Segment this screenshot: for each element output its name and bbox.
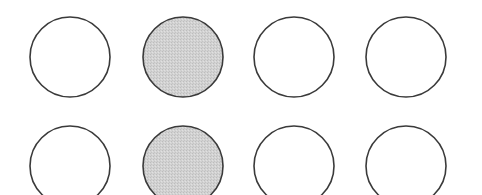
empty-circle-r1-c3 [254,17,334,97]
empty-circle-r1-c4 [366,17,446,97]
circles-layer [30,17,446,195]
empty-circle-r2-c4 [366,126,446,195]
empty-circle-r1-c1 [30,17,110,97]
shaded-circle-r2-c2 [143,126,223,195]
empty-circle-r2-c3 [254,126,334,195]
shaded-circle-r1-c2 [143,17,223,97]
circle-grid-diagram [0,0,482,195]
empty-circle-r2-c1 [30,126,110,195]
